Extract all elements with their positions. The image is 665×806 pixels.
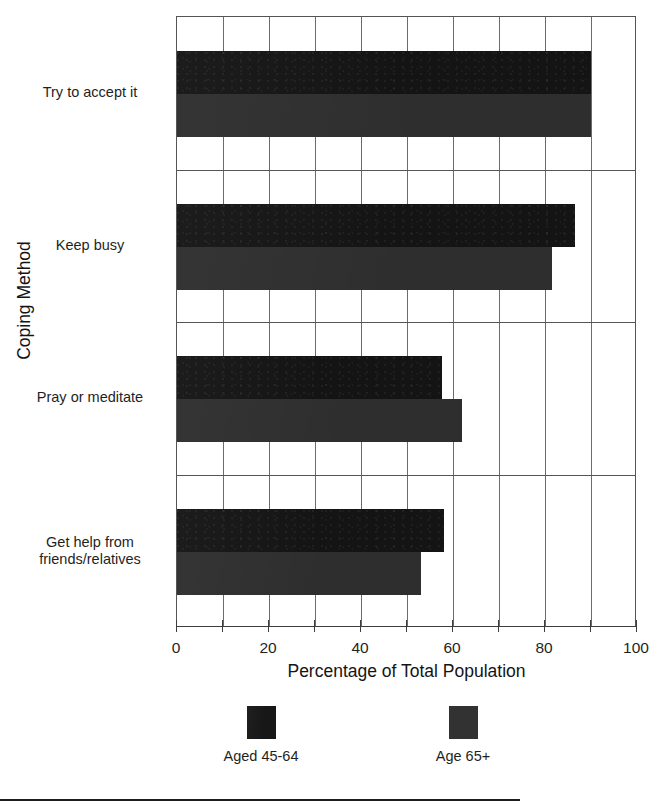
x-axis-tick xyxy=(176,620,177,632)
bar-age-65-plus xyxy=(177,552,421,595)
bar-group xyxy=(177,17,635,170)
category-label: Keep busy xyxy=(10,237,170,254)
category-label-line: Get help from xyxy=(10,534,170,551)
x-axis-tick xyxy=(498,620,499,632)
bar-age-65-plus xyxy=(177,94,591,137)
chart-legend: Aged 45-64Age 65+ xyxy=(0,706,665,778)
x-axis-tick xyxy=(406,620,407,632)
x-axis-tick xyxy=(636,620,637,632)
x-axis-tick xyxy=(452,620,453,632)
x-axis-tick xyxy=(222,620,223,632)
legend-swatch xyxy=(247,706,276,739)
x-axis-tick xyxy=(544,620,545,632)
category-label: Get help fromfriends/relatives xyxy=(10,534,170,568)
category-separator xyxy=(177,322,635,323)
bar-group xyxy=(177,170,635,323)
x-axis-tick-label: 60 xyxy=(422,639,482,657)
category-label: Try to accept it xyxy=(10,84,170,101)
x-axis-tick-label: 0 xyxy=(146,639,206,657)
x-axis-tick-label: 40 xyxy=(330,639,390,657)
x-axis-title: Percentage of Total Population xyxy=(176,661,637,682)
bar-group xyxy=(177,322,635,475)
legend-entry: Aged 45-64 xyxy=(186,706,336,764)
bar-age-65-plus xyxy=(177,247,552,290)
category-label-line: Keep busy xyxy=(10,237,170,254)
legend-swatch xyxy=(449,706,478,739)
bottom-rule xyxy=(0,799,520,801)
bar-aged-45-64 xyxy=(177,509,444,552)
x-axis-tick xyxy=(590,620,591,632)
bar-age-65-plus xyxy=(177,399,462,442)
x-axis-tick xyxy=(268,620,269,632)
category-label-group: Try to accept itKeep busyPray or meditat… xyxy=(6,16,170,626)
bar-chart-figure: Coping Method Try to accept itKeep busyP… xyxy=(0,0,665,806)
x-axis-tick xyxy=(314,620,315,632)
x-axis-tick-label: 80 xyxy=(514,639,574,657)
bar-aged-45-64 xyxy=(177,204,575,247)
plot-area xyxy=(176,16,636,626)
category-label-line: Pray or meditate xyxy=(10,389,170,406)
x-axis-tick-label: 20 xyxy=(238,639,298,657)
x-axis-tick-label: 100 xyxy=(606,639,665,657)
x-axis-tick xyxy=(360,620,361,632)
bar-group xyxy=(177,475,635,628)
category-label-line: Try to accept it xyxy=(10,84,170,101)
legend-label: Age 65+ xyxy=(388,748,538,764)
bar-aged-45-64 xyxy=(177,51,591,94)
category-label: Pray or meditate xyxy=(10,389,170,406)
category-label-line: friends/relatives xyxy=(10,551,170,568)
category-separator xyxy=(177,475,635,476)
legend-entry: Age 65+ xyxy=(388,706,538,764)
bar-aged-45-64 xyxy=(177,356,442,399)
category-separator xyxy=(177,170,635,171)
legend-label: Aged 45-64 xyxy=(186,748,336,764)
